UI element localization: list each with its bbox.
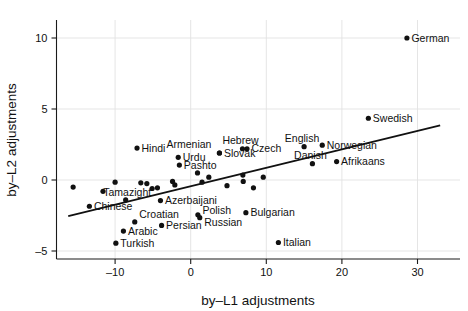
data-point — [113, 241, 118, 246]
data-point-label: Chinese — [94, 200, 133, 212]
data-point — [172, 182, 177, 187]
data-point — [71, 185, 76, 190]
x-tick-label: 30 — [411, 266, 423, 278]
data-point — [155, 185, 160, 190]
data-point-label: Norwegian — [327, 139, 377, 151]
data-point-label: German — [411, 32, 449, 44]
data-point-label: Hebrew — [222, 134, 259, 146]
data-point — [159, 223, 164, 228]
data-point — [320, 143, 325, 148]
scatter-plot-figure: –100102030 –50510 GermanSwedishEnglishNo… — [0, 0, 468, 311]
data-point — [134, 145, 139, 150]
data-point — [251, 185, 256, 190]
data-point — [310, 161, 315, 166]
y-axis-ticks: –50510 — [35, 32, 56, 257]
data-point — [199, 180, 204, 185]
data-point — [176, 155, 181, 160]
data-point-label: Hindi — [142, 142, 166, 154]
data-point — [158, 198, 163, 203]
data-point-label: Bulgarian — [250, 206, 295, 218]
data-point-label: Armenian — [166, 138, 211, 150]
data-point — [366, 116, 371, 121]
y-tick-label: 0 — [41, 174, 47, 186]
data-point-label: Arabic — [128, 225, 158, 237]
data-point-label: Persian — [166, 219, 202, 231]
x-axis-title: by–L1 adjustments — [201, 293, 315, 308]
x-tick-label: 0 — [188, 266, 194, 278]
data-point-label: Afrikaans — [341, 155, 385, 167]
data-point — [195, 170, 200, 175]
data-point-label: Russian — [204, 216, 242, 228]
data-point — [276, 240, 281, 245]
data-point — [206, 175, 211, 180]
data-point — [177, 162, 182, 167]
y-tick-label: –5 — [35, 245, 47, 257]
y-axis-title: by–L2 adjustments — [4, 83, 19, 197]
data-point-label: Italian — [283, 236, 311, 248]
data-point-label: Pashto — [184, 159, 217, 171]
x-tick-label: 20 — [336, 266, 348, 278]
data-point-label: Swedish — [373, 112, 413, 124]
data-point — [243, 210, 248, 215]
data-point — [241, 179, 246, 184]
data-point-label: Slovak — [224, 147, 256, 159]
data-point — [240, 172, 245, 177]
x-axis-ticks: –100102030 — [106, 259, 424, 278]
data-point — [217, 150, 222, 155]
data-point-label: English — [285, 132, 320, 144]
data-point — [113, 180, 118, 185]
data-point — [224, 183, 229, 188]
data-point — [121, 229, 126, 234]
data-point — [132, 219, 137, 224]
y-tick-label: 10 — [35, 32, 47, 44]
data-point-label: Croatian — [139, 208, 179, 220]
x-tick-label: –10 — [106, 266, 124, 278]
data-point-labels: GermanSwedishEnglishNorwegianDanishAfrik… — [94, 32, 450, 249]
data-point — [138, 180, 143, 185]
data-point — [87, 204, 92, 209]
scatter-plot-svg: –100102030 –50510 GermanSwedishEnglishNo… — [0, 0, 468, 311]
x-tick-label: 10 — [260, 266, 272, 278]
data-point — [261, 175, 266, 180]
data-point — [404, 35, 409, 40]
data-point-label: Danish — [294, 149, 327, 161]
data-point — [334, 159, 339, 164]
y-tick-label: 5 — [41, 103, 47, 115]
data-point-label: Tamazight — [103, 186, 151, 198]
data-point-label: Azerbaijani — [165, 194, 217, 206]
data-point-label: Turkish — [120, 237, 154, 249]
